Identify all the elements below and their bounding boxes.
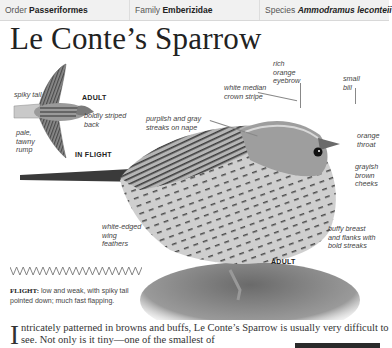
label-purplish-gray-streaks: purplish and gray streaks on nape (146, 115, 216, 132)
drop-cap: I (10, 324, 19, 346)
leader-line (300, 83, 301, 108)
label-white-edged-wing: white-edged wing feathers (102, 223, 142, 249)
body-text: ntricately patterned in browns and buffs… (21, 322, 389, 345)
flight-description: FLIGHT: low and weak, with spiky tail po… (10, 286, 150, 305)
label-buffy-breast: buffy breast and flanks with bold streak… (328, 225, 378, 251)
order-label: Order (5, 5, 27, 15)
taxonomy-header: Order Passeriformes Family Emberizidae S… (0, 0, 389, 21)
family-label: Family (135, 5, 160, 15)
label-white-median-crown-stripe: white median crown stripe (224, 84, 274, 101)
species-cell: Species Ammodramus leconteii (260, 0, 389, 20)
photo-thumbnail (295, 343, 380, 348)
species-value: Ammodramus leconteii (298, 5, 392, 15)
flight-label: FLIGHT: (10, 287, 39, 295)
label-spiky-tail: spiky tail (14, 91, 42, 100)
family-cell: Family Emberizidae (130, 0, 260, 20)
label-small-bill: small bill (343, 75, 363, 92)
label-rich-orange-eyebrow: rich orange eyebrow (273, 60, 303, 86)
order-cell: Order Passeriformes (0, 0, 130, 20)
page-title: Le Conte’s Sparrow (10, 21, 262, 57)
label-orange-throat: orange throat (357, 132, 387, 149)
flight-pattern-zigzag (10, 266, 142, 276)
label-grayish-brown-cheeks: grayish brown cheeks (355, 163, 387, 189)
label-adult: ADULT (271, 258, 296, 265)
family-value: Emberizidae (162, 5, 212, 15)
order-value: Passeriformes (29, 5, 88, 15)
species-label: Species (265, 5, 295, 15)
